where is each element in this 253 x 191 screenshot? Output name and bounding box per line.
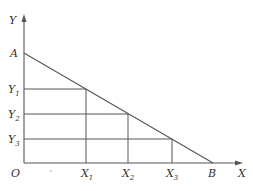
x-axis-label: X (237, 167, 247, 180)
x-axis-arrow-icon (235, 161, 243, 166)
origin-label: O (11, 167, 20, 180)
x2-label: X2 (121, 167, 135, 182)
dot-mark (50, 170, 51, 171)
x3-label: X3 (165, 167, 179, 182)
y2-label: Y2 (8, 108, 20, 123)
point-b-label: B (207, 167, 216, 180)
diagram: Y X O A B Y1 Y2 Y3 X1 X2 X3 (0, 0, 253, 191)
line-ab (24, 53, 213, 163)
x1-label: X1 (80, 167, 93, 182)
y1-label: Y1 (8, 83, 20, 98)
y-axis-arrow-icon (22, 14, 27, 22)
y-axis-label: Y (9, 14, 18, 27)
point-a-label: A (9, 47, 18, 60)
y3-label: Y3 (8, 133, 20, 148)
